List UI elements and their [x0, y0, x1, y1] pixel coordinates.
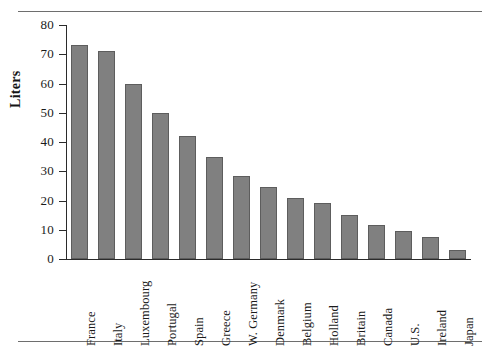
y-axis-tick-mark [59, 259, 66, 260]
x-axis-category-label: Luxembourg [139, 281, 152, 346]
figure-container: Liters 01020304050607080 FranceItalyLuxe… [0, 0, 497, 353]
x-axis-category-label: Belgium [301, 302, 314, 346]
y-axis-tick-label: 40 [0, 135, 54, 148]
x-axis-category-label: Britain [355, 311, 368, 346]
x-axis-category-label: Spain [193, 317, 206, 346]
x-axis-category-label: Portugal [166, 303, 179, 346]
bar [368, 225, 385, 259]
x-axis-category-label: Ireland [436, 310, 449, 346]
x-axis-category-label: Italy [112, 323, 125, 346]
bar [395, 231, 412, 259]
x-axis-category-label: Denmark [274, 299, 287, 346]
x-axis-category-label: Canada [382, 308, 395, 346]
bar [152, 113, 169, 259]
x-axis-category-label: U.S. [409, 323, 422, 346]
x-axis-category-labels: FranceItalyLuxembourgPortugalSpainGreece… [66, 262, 471, 350]
y-axis-tick-mark [59, 84, 66, 85]
y-axis-tick-label: 10 [0, 223, 54, 236]
bar [206, 157, 223, 259]
y-axis-tick-mark [59, 201, 66, 202]
y-axis-tick-label: 30 [0, 164, 54, 177]
bar [449, 250, 466, 259]
x-axis-category-label: Greece [220, 310, 233, 346]
bar [98, 51, 115, 259]
bar [287, 198, 304, 259]
y-axis-tick-label: 20 [0, 194, 54, 207]
y-axis-tick-mark [59, 54, 66, 55]
x-axis-category-label: France [85, 311, 98, 346]
y-axis-tick-label: 70 [0, 47, 54, 60]
y-axis-tick-mark [59, 142, 66, 143]
x-axis-category-label: Holland [328, 305, 341, 346]
y-axis-tick-mark [59, 113, 66, 114]
y-axis-tick-label: 50 [0, 106, 54, 119]
bar [341, 215, 358, 259]
y-axis-tick-label: 0 [0, 252, 54, 265]
bar [125, 84, 142, 260]
x-axis-baseline [66, 259, 471, 260]
y-axis-tick-mark [59, 171, 66, 172]
bar-series [66, 25, 471, 259]
x-axis-category-label: Japan [463, 317, 476, 346]
bar [233, 176, 250, 259]
y-axis-tick-label: 80 [0, 18, 54, 31]
bar-chart-plot: Liters 01020304050607080 FranceItalyLuxe… [0, 0, 497, 353]
bar [422, 237, 439, 259]
bar [71, 45, 88, 259]
x-axis-category-label: W. Germany [247, 282, 260, 346]
bar [314, 203, 331, 259]
y-axis-tick-mark [59, 230, 66, 231]
y-axis-tick-label: 60 [0, 77, 54, 90]
bar [179, 136, 196, 259]
y-axis-tick-mark [59, 25, 66, 26]
bar [260, 187, 277, 259]
